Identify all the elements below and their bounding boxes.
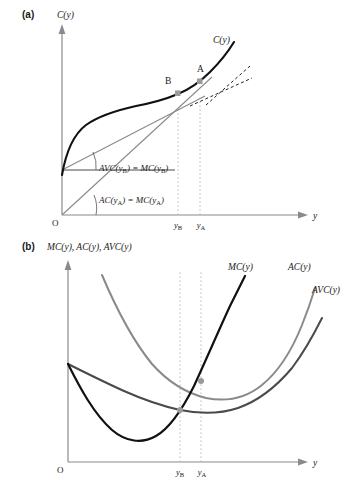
tick-label-ya-b: yA: [197, 467, 207, 478]
panel-b-origin-label: O: [57, 465, 64, 475]
panel-a-x-axis: [62, 212, 308, 219]
panel-a-y-axis: [59, 24, 66, 215]
panel-a-total-cost: (a) C(y) y O: [0, 0, 346, 235]
annot-ac-prefix: AC(y: [98, 195, 118, 205]
annotation-avc-equals-mc: AVC(yB) = MC(yB): [98, 163, 168, 174]
curve-label-mc: MC(y): [227, 262, 253, 273]
point-label-b: B: [165, 76, 171, 86]
avc-angle-arc: [93, 152, 96, 170]
panel-b-mc-ac-avc: (b) MC(y), AC(y), AVC(y) y O MC(y) AC(y): [0, 230, 346, 485]
panel-b-x-axis: [68, 459, 308, 466]
panel-b-x-axis-label: y: [312, 458, 318, 468]
annot-avc-mid: ) = MC(y: [126, 163, 161, 173]
point-marker-a: [197, 79, 203, 85]
svg-text:AC(yA) = MC(yA): AC(yA) = MC(yA): [98, 195, 164, 206]
avc-curve: [68, 318, 322, 413]
panel-b-y-axis-label: MC(y), AC(y), AVC(y): [46, 242, 132, 253]
figure-root: (a) C(y) y O: [0, 0, 346, 485]
panel-a-tag: (a): [22, 9, 34, 20]
intersection-marker-mc-avc: [177, 407, 183, 413]
curve-label-ac: AC(y): [287, 262, 311, 273]
tick-ya-b-sub: A: [202, 471, 207, 478]
tick-yb-b-sub: B: [180, 471, 185, 478]
panel-a-y-axis-label: C(y): [57, 10, 74, 21]
ac-curve: [102, 275, 315, 399]
panel-b-y-axis: [65, 260, 72, 462]
mc-curve: [68, 276, 245, 441]
curve-label-total-cost: C(y): [213, 35, 230, 46]
intersection-marker-mc-ac: [198, 378, 204, 384]
panel-b-tag: (b): [22, 241, 35, 252]
ac-angle-arc: [94, 195, 97, 215]
annotation-ac-equals-mc: AC(yA) = MC(yA): [98, 195, 164, 206]
svg-text:AVC(yB) = MC(yB): AVC(yB) = MC(yB): [98, 163, 168, 174]
annot-ac-mid: ) = MC(y: [121, 195, 156, 205]
annot-ac-suffix: ): [160, 195, 164, 205]
total-cost-curve: [62, 42, 234, 175]
point-label-a: A: [197, 64, 204, 74]
curve-label-avc: AVC(y): [311, 285, 340, 296]
annot-avc-suffix: ): [164, 163, 168, 173]
annot-avc-prefix: AVC(y: [98, 163, 123, 173]
point-marker-b: [175, 91, 181, 97]
tangent-line-at-a: [206, 66, 250, 105]
panel-a-x-axis-label: y: [312, 211, 318, 221]
panel-a-origin-label: O: [52, 218, 59, 228]
tick-label-yb-b: yB: [175, 467, 185, 478]
